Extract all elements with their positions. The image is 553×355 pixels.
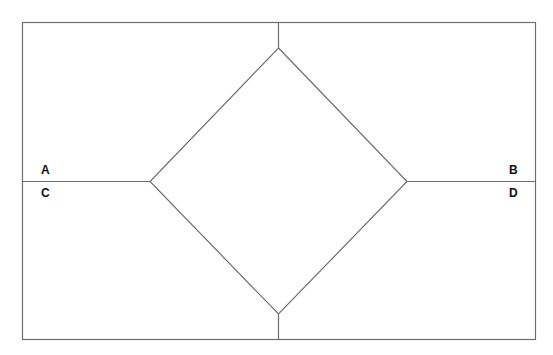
label-d: D: [509, 186, 518, 200]
label-a: A: [41, 163, 50, 177]
label-b: B: [509, 163, 518, 177]
center-diamond: [150, 48, 407, 314]
diagram-canvas: A C B D: [0, 0, 553, 355]
label-c: C: [41, 186, 50, 200]
